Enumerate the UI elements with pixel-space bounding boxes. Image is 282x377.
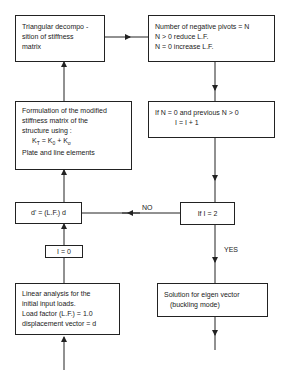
box-text: If I = 2 bbox=[198, 210, 218, 217]
displacement-update-box: d' = (L.F.) d bbox=[15, 202, 82, 224]
box-text: Plate and line elements bbox=[22, 148, 125, 158]
box-text: Triangular decompo - bbox=[22, 22, 98, 32]
box-text: Number of negative pivots = N bbox=[155, 22, 268, 32]
stiffness-equation: KT = K0 + Kσ bbox=[22, 136, 125, 148]
negative-pivots-box: Number of negative pivots = N N > 0 redu… bbox=[148, 15, 275, 62]
box-text: sition of stiffness bbox=[22, 32, 98, 42]
init-i-box: I = 0 bbox=[45, 245, 83, 258]
box-text: Load factor (L.F.) = 1.0 bbox=[22, 309, 113, 319]
box-text: structure using : bbox=[22, 126, 125, 136]
box-text: N > 0 reduce L.F. bbox=[155, 32, 268, 42]
check-n-box: If N = 0 and previous N > 0 I = I + 1 bbox=[148, 101, 275, 138]
box-text: displacement vector = d bbox=[22, 319, 113, 329]
formulation-box: Formulation of the modified stiffness ma… bbox=[15, 101, 132, 170]
yes-label: YES bbox=[224, 246, 238, 253]
box-text: If N = 0 and previous N > 0 bbox=[155, 108, 268, 118]
box-text: Formulation of the modified bbox=[22, 106, 125, 116]
no-label: NO bbox=[142, 204, 153, 211]
box-text: Linear analysis for the bbox=[22, 289, 113, 299]
box-text: matrix bbox=[22, 42, 98, 52]
box-text: (buckling mode) bbox=[164, 300, 261, 310]
box-text: N = 0 increase L.F. bbox=[155, 42, 268, 52]
linear-analysis-box: Linear analysis for the initial input lo… bbox=[15, 283, 120, 335]
box-text: d' = (L.F.) d bbox=[31, 209, 66, 216]
box-text: I = 0 bbox=[57, 248, 71, 255]
check-i-box: If I = 2 bbox=[180, 202, 235, 225]
triangular-decomposition-box: Triangular decompo - sition of stiffness… bbox=[15, 15, 105, 62]
eigen-vector-box: Solution for eigen vector (buckling mode… bbox=[157, 283, 268, 317]
box-text: initial input loads. bbox=[22, 299, 113, 309]
box-text: Solution for eigen vector bbox=[164, 290, 261, 300]
box-text: stiffness matrix of the bbox=[22, 116, 125, 126]
box-text: I = I + 1 bbox=[155, 118, 268, 128]
